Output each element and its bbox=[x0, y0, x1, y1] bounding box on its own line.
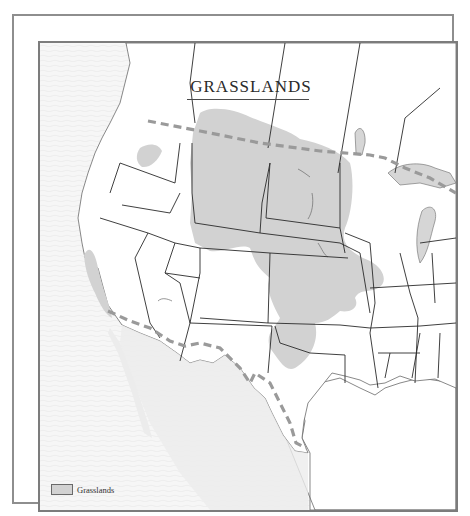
map-frame: GRASSLANDS Grasslands bbox=[38, 41, 458, 512]
map-legend: Grasslands bbox=[51, 484, 114, 495]
map-canvas bbox=[40, 43, 456, 510]
title-underline bbox=[187, 99, 309, 100]
map-title: GRASSLANDS bbox=[186, 77, 316, 97]
outer-frame: GRASSLANDS Grasslands bbox=[12, 14, 454, 504]
legend-label-grasslands: Grasslands bbox=[77, 485, 114, 495]
legend-swatch-grasslands bbox=[51, 484, 73, 495]
